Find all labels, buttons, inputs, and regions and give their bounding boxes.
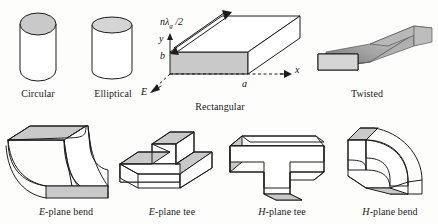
field-label-e: E: [141, 86, 147, 97]
e-plane-bend-shape: [6, 124, 116, 200]
caption-e-plane-bend: E-plane bend: [20, 206, 112, 217]
twisted-waveguide-shape: [318, 22, 436, 82]
circular-waveguide-shape: [14, 12, 62, 84]
caption-h-plane-tee: H-plane tee: [240, 206, 324, 217]
caption-h-plane-bend: H-plane bend: [344, 206, 436, 217]
dimension-label-b: b: [160, 50, 165, 61]
dimension-label-a: a: [242, 78, 247, 89]
h-plane-tee-shape: [228, 132, 332, 200]
caption-circular: Circular: [6, 88, 70, 99]
axis-label-x: x: [295, 64, 299, 75]
caption-twisted: Twisted: [334, 88, 400, 99]
caption-elliptical: Elliptical: [78, 88, 148, 99]
elliptical-waveguide-shape: [88, 15, 136, 85]
caption-rectangular: Rectangular: [175, 101, 265, 112]
length-label: nλg /2: [160, 16, 183, 30]
h-plane-bend-shape: [338, 124, 428, 202]
waveguide-components-figure: Circular Elliptical nλg /2 y b x a E: [0, 0, 438, 224]
axis-label-y: y: [159, 33, 163, 44]
e-plane-tee-shape: [116, 130, 218, 200]
caption-e-plane-tee: E-plane tee: [130, 206, 214, 217]
